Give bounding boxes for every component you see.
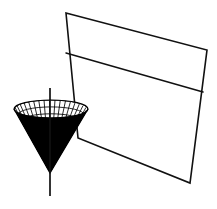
figure-canvas: 3D wireframe cone intersected by a tilte…: [0, 0, 217, 209]
cone-mesh-surface: [14, 100, 88, 173]
plane-quadrilateral: [66, 13, 207, 183]
figure-svg: [0, 0, 217, 209]
plane-divider-line: [66, 53, 203, 92]
intersecting-plane: [66, 13, 207, 183]
